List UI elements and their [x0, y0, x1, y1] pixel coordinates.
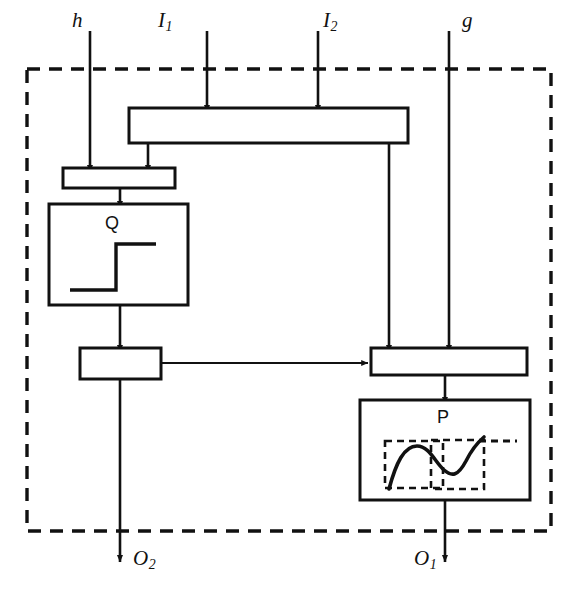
- diagram-svg: [0, 0, 577, 595]
- input-label-I1-text: I: [158, 8, 165, 32]
- block-label-p: P: [437, 408, 449, 426]
- input-label-I2-sub: 2: [330, 19, 337, 34]
- output-label-O2-text: O: [133, 546, 148, 570]
- block-right-bar: [371, 348, 527, 375]
- input-label-h-text: h: [72, 8, 83, 32]
- input-label-I2-text: I: [323, 8, 330, 32]
- block-label-q: Q: [105, 214, 119, 232]
- output-label-O2: O2: [133, 548, 156, 572]
- input-label-I1-sub: 1: [165, 19, 172, 34]
- input-label-g-text: g: [462, 8, 473, 32]
- input-label-h: h: [72, 10, 83, 31]
- output-label-O1-text: O: [414, 546, 429, 570]
- block-splitter-box: [63, 168, 175, 188]
- block-left-mid-box: [80, 348, 161, 379]
- block-diagram-canvas: h I1 I2 g Q P O2 O1: [0, 0, 577, 595]
- input-label-I1: I1: [158, 10, 172, 34]
- output-label-O1: O1: [414, 548, 437, 572]
- block-top-bar: [129, 108, 408, 143]
- input-label-I2: I2: [323, 10, 337, 34]
- output-label-O2-sub: 2: [148, 557, 155, 572]
- input-label-g: g: [462, 10, 473, 31]
- output-label-O1-sub: 1: [429, 557, 436, 572]
